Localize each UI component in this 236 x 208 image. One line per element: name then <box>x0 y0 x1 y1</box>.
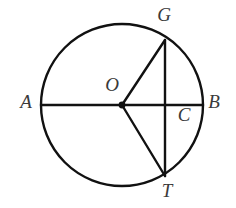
point-label-t: T <box>162 180 174 201</box>
segment-radius-ot <box>122 105 165 176</box>
center-point-dot <box>119 102 126 109</box>
geometry-canvas: A B G T O C <box>0 0 236 208</box>
point-label-c: C <box>178 104 191 125</box>
point-label-a: A <box>18 91 32 112</box>
segment-radius-og <box>122 40 165 105</box>
point-label-b: B <box>208 91 220 112</box>
point-label-g: G <box>157 4 171 25</box>
circle-geometry-diagram: A B G T O C <box>0 0 236 208</box>
point-label-o: O <box>105 74 119 95</box>
